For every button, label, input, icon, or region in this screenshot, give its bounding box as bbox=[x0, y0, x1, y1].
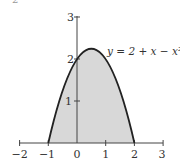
y-tick-label: 2 bbox=[67, 53, 74, 66]
y-tick-label: 1 bbox=[65, 95, 72, 108]
x-tick-label: 2 bbox=[131, 148, 138, 161]
x-tick-label: −1 bbox=[39, 148, 55, 161]
x-tick-label: −2 bbox=[11, 148, 27, 161]
area-chart: 2 −2 −1 0 1 2 3 1 2 3 y = 2 + x − x² bbox=[0, 0, 180, 165]
x-tick-label: 0 bbox=[74, 148, 81, 161]
x-tick-label: 3 bbox=[159, 148, 166, 161]
x-tick-label: 1 bbox=[102, 148, 109, 161]
y-tick-label: 3 bbox=[67, 11, 74, 24]
equation-label: y = 2 + x − x² bbox=[106, 45, 180, 57]
figure-corner-label: 2 bbox=[12, 0, 18, 5]
